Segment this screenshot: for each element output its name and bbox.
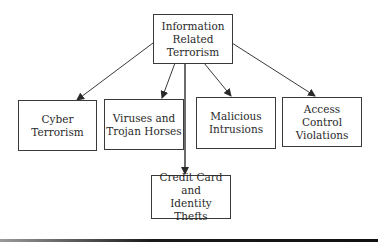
node-label: Access Control Violations [283,103,361,142]
node-label: Information Related Terrorism [161,20,224,59]
bottom-divider [0,239,378,242]
node-cyber-terrorism: Cyber Terrorism [18,100,97,151]
node-label: Credit Card and Identity Thefts [152,171,230,223]
node-information-related-terrorism: Information Related Terrorism [153,14,233,64]
node-malicious-intrusions: Malicious Intrusions [196,97,276,149]
edge-to-access-control [232,43,315,96]
edge-to-malicious-intrusions [204,63,231,96]
node-label: Cyber Terrorism [31,113,84,139]
edge-to-cyber-terrorism [77,43,153,100]
node-label: Viruses and Trojan Horses [106,112,181,138]
node-access-control-violations: Access Control Violations [282,97,362,147]
node-label: Malicious Intrusions [209,110,263,136]
node-viruses-trojan-horses: Viruses and Trojan Horses [104,99,184,150]
edge-to-viruses [162,63,175,98]
node-credit-card-identity-thefts: Credit Card and Identity Thefts [151,175,231,219]
